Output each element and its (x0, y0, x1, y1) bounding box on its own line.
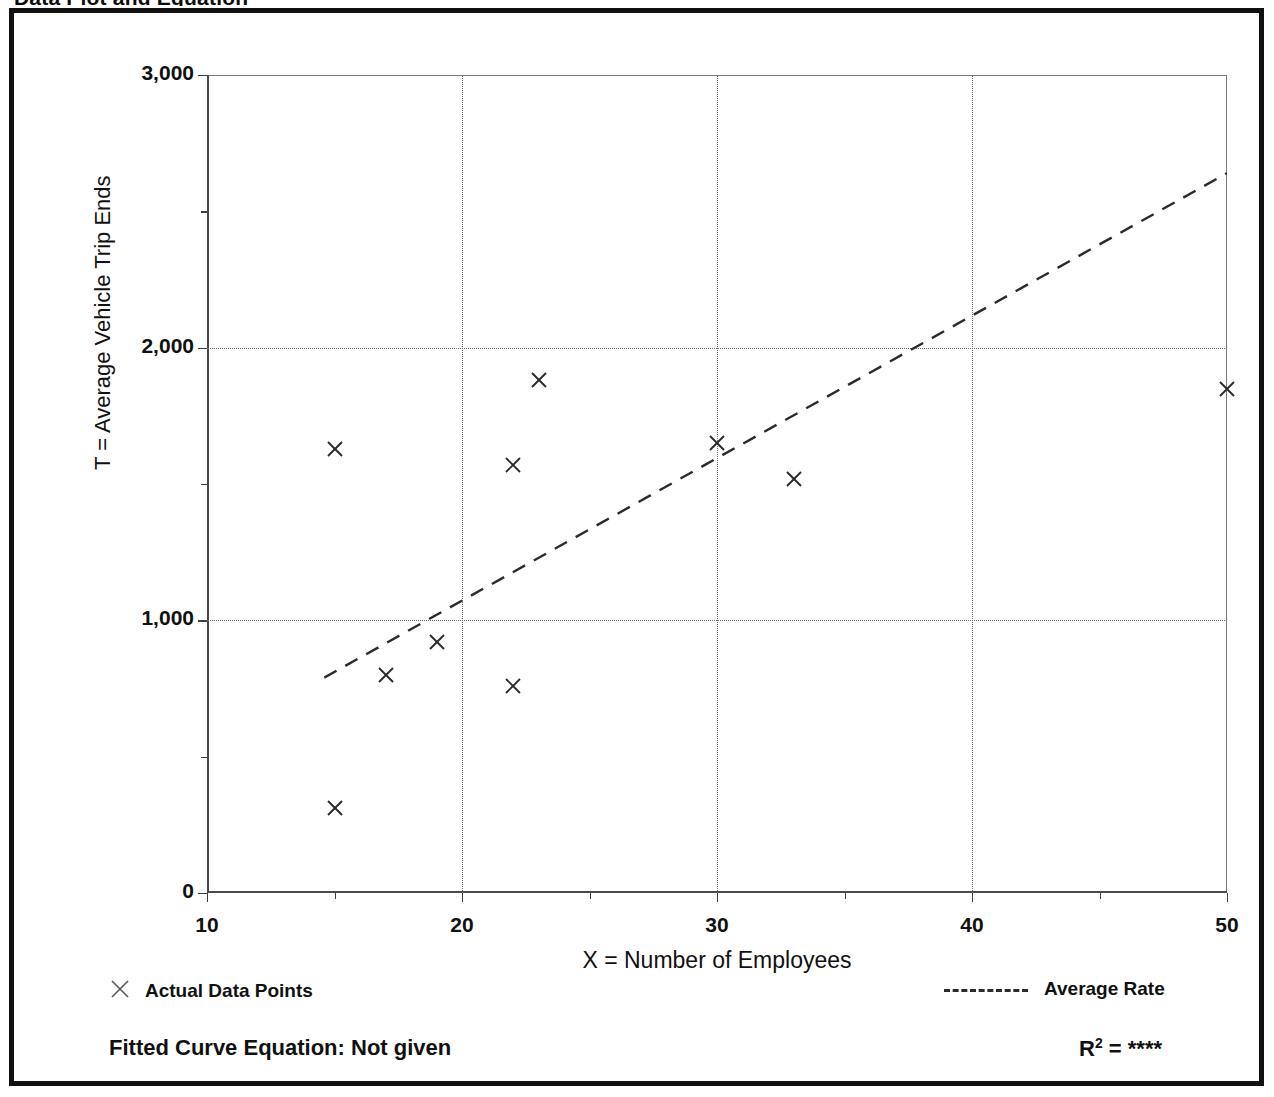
chart-title-cropped: Data Plot and Equation (14, 0, 714, 6)
data-point-marker (1216, 378, 1238, 400)
fitted-curve-equation: Fitted Curve Equation: Not given (109, 1035, 451, 1061)
plot-area: 01,0002,0003,0001020304050 T = Average V… (207, 75, 1227, 893)
data-point-marker (324, 797, 346, 819)
x-axis-minor-tick (590, 893, 591, 899)
x-axis-minor-tick (845, 893, 846, 899)
gridline-vertical (972, 75, 973, 893)
data-point-marker (426, 631, 448, 653)
x-axis-tick (207, 893, 208, 902)
data-point-marker (783, 468, 805, 490)
x-axis-tick (972, 893, 973, 902)
x-axis-title: X = Number of Employees (207, 947, 1227, 974)
r-squared-value: = **** (1109, 1036, 1162, 1061)
legend-item-actual-data-points: Actual Data Points (109, 978, 313, 1004)
legend-label-actual-data-points: Actual Data Points (145, 980, 313, 1002)
x-axis-minor-tick (1100, 893, 1101, 899)
y-axis-tick (198, 348, 207, 349)
x-axis-tick-label: 40 (927, 913, 1017, 937)
y-axis-title: T = Average Vehicle Trip Ends (90, 175, 116, 470)
dashed-line-icon (944, 989, 1028, 992)
data-point-marker (706, 432, 728, 454)
y-axis-tick-label: 1,000 (74, 606, 194, 630)
data-point-marker (502, 454, 524, 476)
y-axis-minor-tick (201, 484, 207, 485)
y-axis-line (207, 75, 209, 893)
x-axis-tick (717, 893, 718, 902)
chart-frame: 01,0002,0003,0001020304050 T = Average V… (9, 8, 1264, 1086)
x-axis-tick-label: 50 (1182, 913, 1272, 937)
x-axis-tick (462, 893, 463, 902)
r-squared-symbol: R (1079, 1036, 1095, 1061)
x-axis-tick-label: 10 (162, 913, 252, 937)
y-axis-minor-tick (201, 211, 207, 212)
x-axis-minor-tick (335, 893, 336, 899)
x-axis-tick (1227, 893, 1228, 902)
y-axis-tick-label: 0 (74, 879, 194, 903)
chart-footer: Fitted Curve Equation: Not given R2 = **… (14, 1035, 1269, 1075)
y-axis-minor-tick (201, 757, 207, 758)
legend: Actual Data Points Average Rate (14, 978, 1269, 1012)
x-axis-tick-label: 30 (672, 913, 762, 937)
data-point-marker (375, 664, 397, 686)
legend-label-average-rate: Average Rate (1044, 978, 1165, 1000)
y-axis-tick-label: 3,000 (74, 61, 194, 85)
r-squared-exponent: 2 (1095, 1035, 1103, 1051)
y-axis-tick (198, 893, 207, 894)
y-axis-tick (198, 75, 207, 76)
plot-right-border (1226, 75, 1227, 893)
x-marker-icon (109, 978, 131, 1004)
data-point-marker (324, 438, 346, 460)
r-squared-annotation: R2 = **** (1079, 1035, 1162, 1062)
gridline-vertical (717, 75, 718, 893)
data-point-marker (528, 369, 550, 391)
legend-item-average-rate: Average Rate (944, 978, 1165, 1000)
y-axis-tick (198, 620, 207, 621)
gridline-vertical (462, 75, 463, 893)
data-point-marker (502, 675, 524, 697)
x-axis-tick-label: 20 (417, 913, 507, 937)
